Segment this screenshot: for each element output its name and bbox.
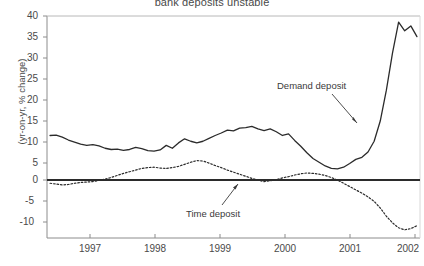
plot-area — [0, 0, 424, 266]
y-tick-marks — [43, 16, 47, 222]
chart-figure: bank deposits unstable (yr-on-yr, % chan… — [0, 0, 424, 266]
x-tick-marks — [90, 234, 415, 238]
axes-group — [47, 16, 420, 238]
series-line-demand-deposit — [50, 22, 417, 169]
annotation-leader-time — [222, 184, 238, 205]
series-line-time-deposit — [50, 161, 417, 230]
annotation-leader-demand — [332, 94, 357, 123]
